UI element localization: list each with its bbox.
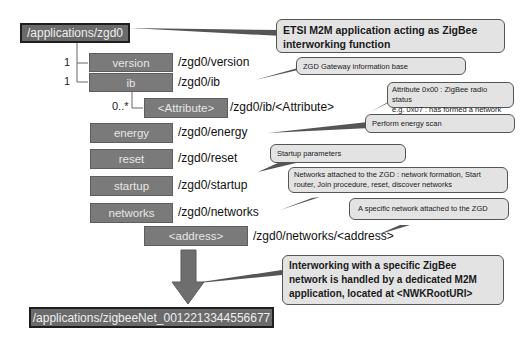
callout-root: ETSI M2M application acting as ZigBee in… bbox=[276, 19, 505, 53]
cardinality-ib: 1 bbox=[64, 75, 70, 87]
path-version: /zgd0/version bbox=[178, 55, 249, 69]
path-reset: /zgd0/reset bbox=[178, 151, 237, 165]
node-startup: startup bbox=[90, 176, 173, 196]
node-version: version bbox=[89, 53, 173, 72]
root-node: /applications/zgd0 bbox=[20, 23, 130, 43]
path-address: /zgd0/networks/<address> bbox=[253, 229, 394, 243]
callout-address: A specific network attached to the ZGD bbox=[349, 198, 509, 220]
path-startup: /zgd0/startup bbox=[178, 178, 247, 192]
node-reset: reset bbox=[90, 149, 173, 169]
zgd-resource-tree-diagram: /applications/zgd0 1 1 0..* version /zgd… bbox=[0, 0, 521, 344]
cardinality-version: 1 bbox=[64, 56, 70, 68]
node-address: <address> bbox=[144, 226, 248, 246]
node-ib: ib bbox=[89, 73, 173, 92]
callout-arrow: Interworking with a specific ZigBee netw… bbox=[282, 255, 504, 305]
path-attribute: /zgd0/ib/<Attribute> bbox=[230, 100, 334, 114]
callout-startup: Startup parameters bbox=[270, 144, 406, 163]
cardinality-attribute: 0..* bbox=[112, 100, 129, 112]
path-networks: /zgd0/networks bbox=[178, 205, 259, 219]
callout-ib: ZGD Gateway information base bbox=[296, 57, 466, 75]
path-energy: /zgd0/energy bbox=[178, 125, 247, 139]
path-ib: /zgd0/ib bbox=[178, 75, 220, 89]
node-networks: networks bbox=[90, 203, 173, 223]
node-energy: energy bbox=[90, 123, 173, 143]
callout-attribute: Attribute 0x00 : ZigBee radio status e.g… bbox=[387, 82, 514, 108]
target-node: /applications/zigbeeNet_0012213344556677 bbox=[29, 307, 274, 328]
node-attribute: <Attribute> bbox=[144, 98, 228, 118]
callout-networks: Networks attached to the ZGD : network f… bbox=[288, 167, 508, 193]
callout-energy: Perform energy scan bbox=[365, 114, 515, 133]
